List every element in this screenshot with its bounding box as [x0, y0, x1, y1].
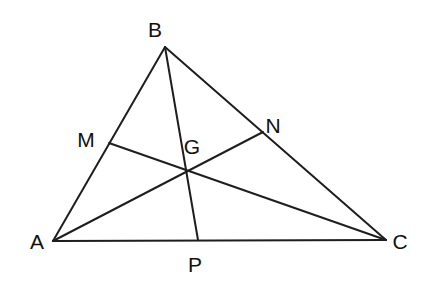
point-label-b: B [148, 18, 162, 41]
point-label-a: A [30, 230, 44, 253]
point-label-c: C [392, 230, 407, 253]
median-cm [109, 143, 386, 240]
point-label-g: G [184, 135, 200, 158]
segments-group [53, 47, 386, 241]
labels-group: ABCMNGP [30, 18, 408, 276]
point-label-p: P [188, 253, 202, 276]
triangle-diagram: ABCMNGP [0, 0, 428, 281]
side-ca [53, 240, 386, 241]
point-label-n: N [265, 114, 280, 137]
point-label-m: M [77, 128, 95, 151]
